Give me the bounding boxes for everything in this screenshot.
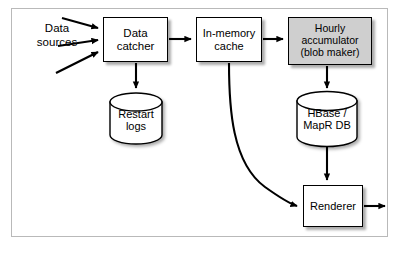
node-hourly-accumulator-line-3: (blob maker): [301, 47, 360, 59]
node-renderer-line-1: Renderer: [310, 200, 356, 212]
node-data-sources: Data sources: [22, 22, 92, 50]
node-data-sources-line-2: sources: [22, 36, 92, 50]
node-renderer[interactable]: Renderer: [303, 185, 363, 227]
node-data-sources-line-1: Data: [22, 22, 92, 36]
node-in-memory-cache[interactable]: In-memory cache: [196, 17, 262, 62]
node-in-memory-cache-line-2: cache: [203, 40, 256, 52]
diagram-canvas: Data sources Data catcher Restart logs I…: [0, 0, 405, 253]
node-hourly-accumulator[interactable]: Hourly accumulator (blob maker): [288, 17, 372, 65]
node-in-memory-cache-line-1: In-memory: [203, 27, 256, 39]
node-data-catcher[interactable]: Data catcher: [103, 17, 168, 62]
node-data-catcher-line-1: Data: [117, 27, 155, 40]
node-data-catcher-line-2: catcher: [117, 40, 155, 53]
